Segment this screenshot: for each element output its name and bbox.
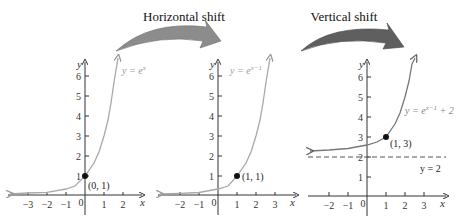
y-axis-label: y — [76, 58, 82, 70]
y-tick-label: 4 — [76, 111, 81, 122]
y-tick-label: 6 — [209, 71, 214, 82]
x-tick-label: 3 — [422, 200, 427, 211]
horizontal-shift-arrow-icon — [116, 20, 221, 51]
x-tick-label: −1 — [61, 199, 72, 210]
vertical-shift-arrow-icon — [301, 23, 404, 51]
x-tick-label: 2 — [254, 199, 259, 210]
x-tick-label: 0 — [361, 198, 366, 209]
x-axis-label: x — [439, 197, 445, 209]
point-label: (1, 1) — [242, 171, 264, 183]
y-tick-label: 1 — [358, 172, 363, 183]
shift-diagram: Horizontal shift Vertical shift −3 −2 −1… — [0, 0, 471, 219]
y-tick-label: 3 — [209, 131, 214, 142]
y-tick-label: 3 — [76, 131, 81, 142]
point-dot — [234, 173, 240, 179]
y-axis-label: y — [209, 58, 215, 70]
x-tick-label: 0 — [212, 197, 217, 208]
panel-exp: −3 −2 −1 0 1 2 x 1 2 3 4 5 6 y (0, 1) y … — [8, 58, 147, 215]
x-tick-label: −3 — [23, 199, 34, 210]
panel-vertical-shift: −2 −1 0 1 2 3 x 1 2 3 4 5 6 y y = 2 (1, … — [308, 58, 454, 216]
vertical-shift-title: Vertical shift — [311, 9, 378, 24]
equation-label: y = ex−1 + 2 — [404, 104, 454, 116]
y-tick-label: 6 — [358, 72, 363, 83]
x-axis-label: x — [289, 196, 295, 208]
panel-horizontal-shift: −2 −1 0 1 2 3 x 1 2 3 4 5 6 y (1, 1) y =… — [158, 58, 296, 215]
point-label: (0, 1) — [88, 180, 110, 192]
horizontal-shift-title: Horizontal shift — [143, 9, 225, 24]
y-tick-label: 4 — [358, 112, 363, 123]
x-tick-label: −1 — [343, 200, 354, 211]
x-tick-label: 1 — [102, 199, 107, 210]
y-tick-label: 1 — [209, 171, 214, 182]
y-tick-label: 3 — [358, 132, 363, 143]
x-tick-label: −2 — [175, 199, 186, 210]
asymptote-label: y = 2 — [420, 163, 441, 174]
equation-label: y = ex — [121, 64, 147, 76]
x-tick-label: −2 — [42, 199, 53, 210]
x-tick-label: 2 — [121, 199, 126, 210]
x-tick-label: 1 — [384, 200, 389, 211]
y-axis-label: y — [358, 58, 364, 70]
y-tick-label: 5 — [358, 92, 363, 103]
y-tick-label: 5 — [76, 91, 81, 102]
y-tick-label: 5 — [209, 91, 214, 102]
curve-exp — [10, 58, 118, 194]
point-dot — [383, 134, 389, 140]
y-tick-label: 2 — [209, 151, 214, 162]
x-tick-label: 2 — [403, 200, 408, 211]
y-tick-label: 4 — [209, 111, 214, 122]
equation-label: y = ex−1 — [229, 64, 262, 76]
x-tick-label: −2 — [324, 200, 335, 211]
point-label: (1, 3) — [390, 138, 412, 150]
point-dot — [82, 173, 88, 179]
x-tick-label: −1 — [194, 199, 205, 210]
y-tick-label: 6 — [76, 71, 81, 82]
x-tick-label: 1 — [235, 199, 240, 210]
y-tick-label: 2 — [76, 151, 81, 162]
x-tick-label: 0 — [79, 197, 84, 208]
x-tick-label: 3 — [273, 199, 278, 210]
x-axis-label: x — [139, 196, 145, 208]
